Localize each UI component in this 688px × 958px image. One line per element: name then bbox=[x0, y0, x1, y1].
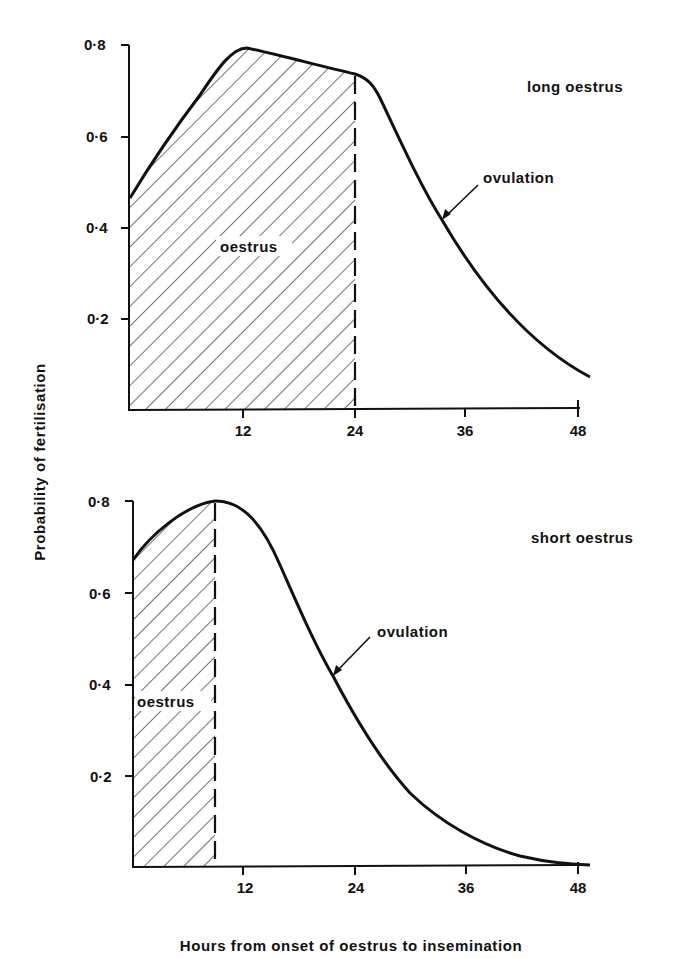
top-xtick-12: 12 bbox=[235, 422, 252, 439]
x-axis-title: Hours from onset of oestrus to inseminat… bbox=[180, 937, 523, 954]
bottom-panel-title: short oestrus bbox=[531, 529, 633, 546]
fertilisation-chart: 0·8 0·6 0·4 0·2 12 24 36 48 oestrus long… bbox=[0, 0, 688, 958]
bottom-xtick-24: 24 bbox=[348, 879, 365, 896]
bottom-ytick-0-8: 0·8 bbox=[88, 493, 110, 510]
top-panel: 0·8 0·6 0·4 0·2 12 24 36 48 oestrus long… bbox=[84, 36, 623, 439]
bottom-xtick-12: 12 bbox=[237, 879, 254, 896]
top-ovulation-arrow-icon bbox=[442, 185, 478, 220]
bottom-ytick-0-6: 0·6 bbox=[89, 585, 111, 602]
bottom-x-ticks bbox=[243, 862, 578, 875]
top-xtick-24: 24 bbox=[347, 422, 364, 439]
top-ytick-0-2: 0·2 bbox=[87, 310, 109, 327]
top-ytick-0-6: 0·6 bbox=[86, 128, 108, 145]
bottom-ovulation-label: ovulation bbox=[377, 623, 448, 640]
top-ytick-0-8: 0·8 bbox=[84, 36, 106, 53]
top-y-ticks bbox=[121, 45, 129, 319]
bottom-panel: 0·8 0·6 0·4 0·2 12 24 36 48 oestrus shor… bbox=[88, 493, 633, 896]
bottom-y-ticks bbox=[125, 501, 133, 776]
bottom-ytick-0-4: 0·4 bbox=[89, 676, 111, 693]
y-axis-title: Probability of fertilisation bbox=[31, 363, 48, 561]
top-ovulation-label: ovulation bbox=[483, 169, 554, 186]
top-panel-title: long oestrus bbox=[527, 78, 623, 95]
top-oestrus-shaded-area bbox=[130, 48, 355, 410]
bottom-xtick-36: 36 bbox=[458, 879, 475, 896]
bottom-oestrus-shaded-area bbox=[133, 501, 215, 867]
bottom-oestrus-label: oestrus bbox=[137, 693, 195, 710]
bottom-ovulation-arrow-icon bbox=[333, 637, 370, 676]
top-ytick-0-4: 0·4 bbox=[86, 219, 108, 236]
top-xtick-48: 48 bbox=[570, 422, 587, 439]
bottom-ytick-0-2: 0·2 bbox=[90, 768, 112, 785]
top-oestrus-label: oestrus bbox=[220, 238, 278, 255]
bottom-xtick-48: 48 bbox=[570, 879, 587, 896]
top-xtick-36: 36 bbox=[457, 422, 474, 439]
